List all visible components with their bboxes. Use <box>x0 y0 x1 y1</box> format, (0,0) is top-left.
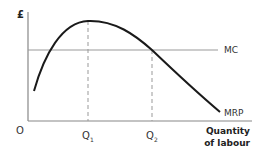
mrp-label: MRP <box>224 109 243 118</box>
x-axis-label-line2: of labour <box>200 139 250 148</box>
x-axis-label-line1: Quantity <box>200 127 250 136</box>
mc-label: MC <box>224 46 238 55</box>
origin-label: O <box>16 126 24 136</box>
q2-label: Q2 <box>146 131 158 143</box>
q1-label: Q1 <box>82 131 94 143</box>
y-axis-label: £ <box>17 10 24 20</box>
mrp-curve <box>34 21 220 112</box>
